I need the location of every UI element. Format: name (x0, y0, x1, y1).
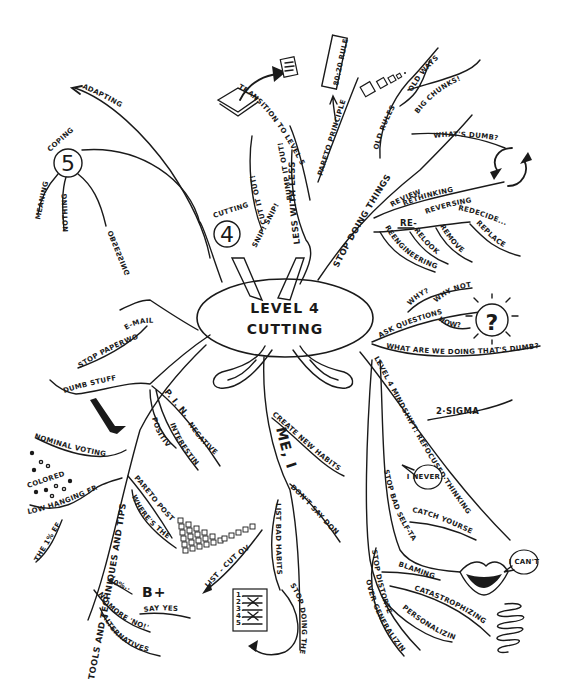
post-it-square (187, 528, 192, 533)
node-4-caption: CUTTING (212, 201, 250, 220)
where-waste-label: WHERE'S THE WASTE? (0, 0, 174, 542)
node-5-number: 5 (61, 151, 75, 176)
post-it-square (203, 536, 208, 541)
arrow-icon (330, 96, 337, 122)
post-it-square (250, 524, 255, 529)
post-it-square (229, 533, 234, 538)
post-it-square (210, 534, 215, 539)
branch-line (82, 150, 200, 224)
i-cant-text: I CAN'T (509, 558, 539, 566)
post-it-square (181, 536, 186, 541)
post-it-square (179, 524, 184, 529)
svg-text:?: ? (486, 310, 499, 335)
re-prefix: RE- (400, 218, 417, 228)
post-it-square (204, 542, 209, 547)
question-bulb-icon: ? (466, 294, 518, 344)
post-it-square (236, 530, 241, 535)
post-it-square (194, 526, 199, 531)
post-it-square (211, 540, 216, 545)
post-it-square (190, 546, 195, 551)
post-it-square (178, 518, 183, 523)
post-it-square (189, 540, 194, 545)
stop-paperwork-label: STOP PAPERWORK (0, 0, 139, 370)
node-level-5: 5 (54, 149, 82, 177)
document-icon (280, 57, 297, 78)
rule-box: 80:20 RULE (322, 35, 350, 89)
center-node: LEVEL 4 CUTTING (197, 279, 373, 357)
post-it-square (243, 527, 248, 532)
post-it-square (195, 532, 200, 537)
adapting-label: ADAPTING (81, 82, 124, 109)
post-it-square (202, 530, 207, 535)
less-with-less-label: LESS WITH LESS (287, 161, 302, 245)
speech-bubble-i-cant: I CAN'T (504, 550, 539, 574)
post-it-square (196, 538, 201, 543)
cycle-arrows-icon (490, 148, 532, 186)
grade-label: B+ (142, 584, 166, 600)
colored-dots-label: COLORED DOTS (0, 0, 66, 490)
center-title-line1: LEVEL 4 (250, 300, 319, 316)
coping-child-nothing: NOTHING (61, 193, 70, 232)
branch-line (140, 613, 190, 618)
coping-child-obsessing: OBSESSING (106, 229, 131, 276)
branch-line (100, 608, 160, 656)
old-ways-label: OLD WAYS (407, 54, 440, 93)
post-it-square (183, 548, 188, 553)
i-never-text: I NEVER... (407, 473, 449, 481)
pareto-principle-label: PARETO PRINCIPLE (316, 98, 347, 176)
tools-label: TOOLS AND TECHNIQUES AND TIPS (86, 502, 128, 680)
branch-line (75, 88, 210, 258)
post-it-square (180, 530, 185, 535)
branch-line (360, 352, 510, 540)
ask-questions-label: ASK QUESTIONS (377, 308, 443, 340)
habit-list-icon: 1. 2. 3. 4. 5. (233, 589, 267, 631)
old-rules-label: OLD RULES (372, 104, 397, 151)
post-it-square (186, 522, 191, 527)
transition-label: TRANSITION TO LEVEL 5 (237, 83, 306, 167)
mouth-icon (460, 562, 508, 595)
center-title-line2: CUTTING (247, 321, 323, 337)
pareto-post-its-label: PARETO POST-ITS (0, 0, 176, 523)
stop-doing-things-label: STOP DOING THINGS (331, 172, 393, 269)
mind-map: LEVEL 4 CUTTING SNIP! SNIP! ADAPTING TRA… (0, 0, 562, 689)
post-it-square (188, 534, 193, 539)
stop-bad-self-talk-label: STOP BAD SELF-TALK (0, 0, 418, 543)
list-bad-habits-label: LIST BAD HABITS (274, 503, 283, 575)
email-label: E-MAIL (123, 317, 154, 332)
checkmark-icon (90, 398, 126, 434)
spring-coil-icon (497, 604, 524, 653)
pin-label: P. I. N. (162, 387, 191, 419)
sigma-label: 2·SIGMA (436, 406, 479, 416)
post-it-square (182, 542, 187, 547)
svg-text:5.: 5. (236, 619, 244, 627)
coping-child-meaning: MEANING (34, 180, 50, 220)
post-it-square (197, 544, 202, 549)
whats-dumb-label: WHAT'S DUMB? (433, 131, 499, 143)
nominal-voting-label: NOMINAL VOTING (33, 432, 106, 458)
node-4-number: 4 (220, 222, 234, 247)
post-it-square (222, 536, 227, 541)
center-ellipse (197, 279, 373, 357)
node-level-4: 4 (214, 221, 240, 247)
branch-line (78, 174, 106, 226)
dumb-stuff-label: DUMB STUFF! (0, 0, 117, 395)
